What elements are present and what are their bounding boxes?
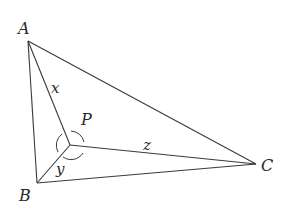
label-x: x [51, 79, 60, 97]
segment-ab [28, 41, 37, 183]
label-b: B [18, 186, 31, 205]
segment-pb [37, 145, 70, 183]
segment-pc [70, 145, 256, 164]
segment-pa [28, 41, 70, 145]
angle-mark-cpb [63, 153, 83, 160]
label-y: y [55, 160, 65, 178]
label-a: A [16, 19, 30, 38]
segment-ac [28, 41, 256, 164]
angle-mark-apc [71, 131, 84, 142]
label-z: z [142, 136, 151, 154]
triangle-diagram: A B C P x y z [0, 0, 288, 209]
angle-mark-bpa [56, 134, 62, 152]
label-p: P [80, 110, 92, 129]
label-c: C [261, 156, 273, 175]
segment-bc [37, 164, 256, 183]
